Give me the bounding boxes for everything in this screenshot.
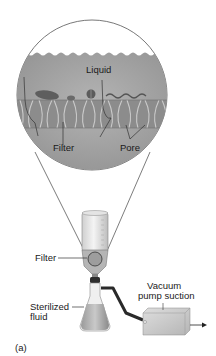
magnified-circle	[10, 20, 185, 180]
filter-funnel	[82, 211, 108, 284]
label-sterilized-fluid-2: fluid	[30, 312, 47, 322]
label-filter-magnified: Filter	[53, 143, 74, 153]
collection-flask	[80, 283, 110, 331]
label-vacuum-2: pump suction	[138, 291, 195, 301]
label-pore: Pore	[120, 143, 140, 153]
outflow-arrow-icon	[190, 323, 207, 328]
small-microbe	[67, 96, 75, 101]
label-filter: Filter	[35, 253, 56, 263]
label-liquid: Liquid	[86, 65, 111, 75]
filter-disc	[88, 252, 102, 266]
vacuum-pump-box	[143, 303, 190, 335]
panel-label: (a)	[15, 343, 27, 353]
vacuum-tube	[101, 288, 143, 320]
